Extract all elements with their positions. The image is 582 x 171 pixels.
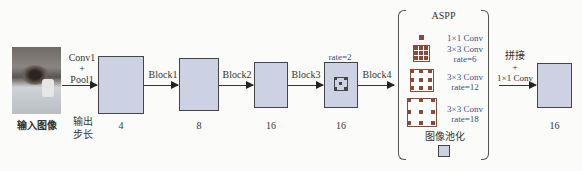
- block4-label: Block4: [358, 69, 396, 81]
- block3-label: Block3: [288, 69, 324, 81]
- image-pooling-label: 图像池化: [420, 131, 470, 143]
- feature-map-stride-8: [179, 58, 219, 111]
- arrow-block1: [144, 85, 178, 86]
- aspp-branch-1-label: 1×1 Conv: [440, 32, 490, 44]
- output-stride-value: 16: [537, 120, 572, 132]
- image-pooling-icon: [438, 145, 450, 157]
- stride-value-16-a: 16: [254, 120, 288, 132]
- aspp-branch-2-rate: rate=6: [440, 54, 490, 64]
- input-image-label: 输入图像: [12, 120, 62, 132]
- stride-label-line1: 输出: [73, 116, 93, 128]
- feature-map-stride-16-b: [324, 62, 358, 108]
- aspp-branch-4-label: 3×3 Conv: [440, 104, 490, 114]
- arrow-block2: [219, 85, 253, 86]
- dilated-kernel-icon: [334, 77, 348, 91]
- aspp-left-brace: [398, 10, 406, 160]
- aspp-branch-2-label: 3×3 Conv: [440, 44, 490, 54]
- photo-detail: [42, 79, 54, 97]
- feature-map-stride-4: [98, 56, 144, 114]
- arrow-block4: [358, 85, 394, 86]
- conv3x3-rate6-kernel-icon: [413, 45, 430, 62]
- block1-label: Block1: [145, 69, 181, 81]
- conv1x1-kernel-icon: [419, 35, 424, 40]
- arrow-conv1: [62, 85, 97, 86]
- arrow-block3: [288, 85, 323, 86]
- input-image: [12, 47, 61, 114]
- stride-value-4: 4: [98, 120, 144, 132]
- output-feature-map: [537, 63, 572, 108]
- conv3x3-rate12-kernel-icon: [410, 69, 434, 92]
- conv3x3-rate18-kernel-icon: [407, 98, 437, 127]
- aspp-branch-3-label: 3×3 Conv: [440, 72, 490, 82]
- feature-map-stride-16-a: [254, 62, 288, 108]
- aspp-title: ASPP: [398, 10, 489, 22]
- stride-value-8: 8: [179, 120, 219, 132]
- stride-value-16-b: 16: [324, 120, 358, 132]
- aspp-branch-3-rate: rate=12: [440, 82, 490, 92]
- block2-label: Block2: [219, 69, 255, 81]
- arrow-fusion: [499, 85, 536, 86]
- aspp-branch-4-rate: rate=18: [440, 114, 490, 124]
- stride-label-line2: 步长: [73, 129, 93, 141]
